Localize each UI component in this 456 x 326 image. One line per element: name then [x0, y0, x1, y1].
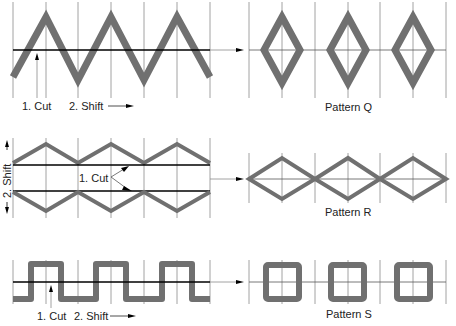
cut-label: 1. Cut — [79, 172, 108, 184]
connected-diamonds — [249, 158, 446, 199]
shift-label: 2. Shift — [69, 100, 103, 112]
cut-arrow-up-icon — [121, 166, 129, 172]
row-r-result: Pattern R — [249, 153, 446, 218]
cut-arrow-down-icon — [122, 186, 132, 191]
cut-arrow-icon — [35, 53, 39, 60]
cut-label: 1. Cut — [37, 310, 66, 322]
row-q-transition-arrow — [228, 48, 244, 52]
row-q-result: Pattern Q — [249, 2, 446, 113]
arrow-right-icon — [236, 48, 244, 52]
shift-label: 2. Shift — [74, 310, 108, 322]
triangle-wave — [13, 17, 210, 80]
row-s-transition-arrow — [228, 280, 244, 284]
lower-triangle-wave — [13, 192, 210, 211]
row-q-source: 1. Cut 2. Shift — [13, 2, 228, 112]
pattern-label: Pattern R — [325, 206, 372, 218]
shift-up-arrow-icon — [5, 140, 9, 147]
shift-down-arrow-icon — [5, 207, 9, 214]
pattern-diagram: 1. Cut 2. Shift Pattern Q — [0, 0, 456, 326]
cut-arrow-icon — [49, 285, 53, 292]
row-r-transition-arrow — [228, 177, 244, 181]
arrow-right-icon — [236, 280, 244, 284]
diamond-shape — [315, 158, 380, 199]
pattern-label: Pattern S — [326, 308, 372, 320]
row-s-source: 1. Cut 2. Shift — [13, 260, 228, 322]
vertical-shift-indicator: 2. Shift — [1, 140, 13, 214]
shift-label: 2. Shift — [1, 164, 13, 198]
cut-label: 1. Cut — [22, 100, 51, 112]
row-s-result: Pattern S — [249, 260, 446, 320]
shift-arrow-icon — [126, 104, 134, 108]
arrow-right-icon — [236, 177, 244, 181]
row-r-source: 2. Shift 1. Cut — [1, 138, 228, 218]
shift-arrow-icon — [128, 314, 136, 318]
pattern-label: Pattern Q — [325, 101, 373, 113]
upper-triangle-wave — [13, 144, 210, 163]
